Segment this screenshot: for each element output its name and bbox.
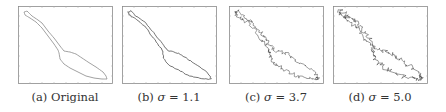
caption-d: (d) σ = 5.0 [325,90,435,104]
caption-label: (c) [245,90,260,104]
sigma-symbol: σ [264,90,272,104]
trajectory-line [337,10,423,81]
caption-a: (a) Original [10,90,120,104]
panel-sigma-3-7 [229,6,324,84]
trajectory-line [235,10,320,80]
caption-b: (b) σ = 1.1 [114,90,224,104]
trajectory-plot-sigma-1-1 [122,6,217,84]
trajectory-plot-sigma-3-7 [229,6,324,84]
panel-sigma-1-1 [122,6,217,84]
trajectory-line [24,11,107,79]
caption-eq: = 1.1 [165,90,200,104]
caption-eq: = 3.7 [272,90,307,104]
trajectory-plot-sigma-5-0 [333,6,428,84]
caption-label: (b) [137,90,153,104]
caption-eq: = 5.0 [376,90,411,104]
caption-c: (c) σ = 3.7 [221,90,331,104]
panel-original [18,6,113,84]
trajectory-plot-original [18,6,113,84]
caption-text: Original [51,90,99,104]
caption-label: (a) [31,90,47,104]
trajectory-line [128,11,212,80]
panel-sigma-5-0 [333,6,428,84]
caption-label: (d) [348,90,364,104]
